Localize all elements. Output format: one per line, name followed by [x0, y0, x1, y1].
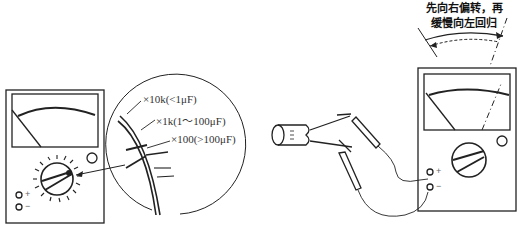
right-meter-plus-terminal [427, 169, 433, 175]
left-meter-body [6, 90, 104, 223]
left-minus-label: − [25, 201, 30, 211]
left-meter-needle [12, 110, 41, 147]
left-meter-plus-terminal [16, 192, 22, 198]
right-meter-zero-knob [497, 136, 507, 146]
return-left-arrow [430, 39, 499, 46]
right-multimeter [418, 68, 516, 211]
right-meter-scale-arc [429, 90, 509, 96]
right-meter-minus-terminal [427, 184, 433, 190]
deflect-right-arrow [425, 33, 503, 40]
range-label-100: ×100(>100μF) [171, 133, 236, 145]
deflection-caption: 先向右偏转，再 缓慢向左回归 [424, 1, 504, 31]
left-plus-label: + [25, 189, 30, 199]
right-meter-window [424, 74, 510, 130]
callout-arrow [76, 165, 125, 175]
right-plus-label: + [436, 166, 441, 176]
left-meter-scale-arc [18, 108, 95, 116]
capacitor-lead-positive [310, 116, 350, 130]
left-meter-window [12, 94, 98, 147]
right-minus-label: − [436, 181, 441, 191]
diagram-canvas [0, 0, 524, 228]
left-meter-dial-pointer [42, 172, 70, 181]
left-meter-minus-terminal [16, 204, 22, 210]
capacitor [272, 116, 352, 147]
left-multimeter [6, 90, 104, 223]
left-meter-zero-knob [87, 153, 97, 163]
caption-line-2: 缓慢向左回归 [424, 16, 504, 31]
range-label-10k: ×10k(<1μF) [143, 93, 197, 105]
red-probe [337, 114, 428, 181]
caption-line-1: 先向右偏转，再 [424, 1, 504, 16]
range-label-1k: ×1k(1～100μF) [156, 112, 226, 128]
right-meter-needle [426, 93, 455, 130]
